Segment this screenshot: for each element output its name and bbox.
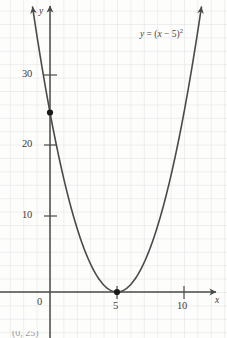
vertex-point [114,289,120,295]
x-tick-label-10: 10 [177,301,187,312]
y-tick-label-30: 30 [22,69,32,80]
y-axis-name: y [39,7,43,17]
x-tick-label-5: 5 [113,301,118,312]
equation-label: y = (x − 5)2 [140,28,183,40]
caption-clip: (0, 25) [0,331,227,338]
equation-equals: = [144,29,154,39]
y-intercept-point [47,109,53,115]
points-layer [0,0,227,338]
equation-exponent: 2 [180,27,183,34]
y-tick-label-10: 10 [22,210,32,221]
y-tick-label-20: 20 [22,139,32,150]
equation-minus: − [162,29,172,39]
x-axis-name: x [215,296,219,306]
caption-text: (0, 25) [12,331,39,338]
parabola-figure: 30 20 10 0 5 10 y x y = (x − 5)2 (0, 25) [0,0,227,338]
x-tick-label-0: 0 [37,297,42,308]
